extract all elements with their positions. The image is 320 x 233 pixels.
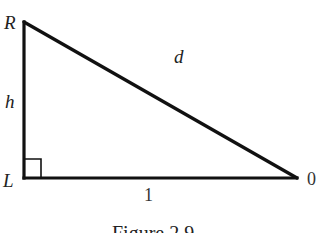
- side-hypotenuse-R0: [24, 22, 297, 178]
- right-angle-marker: [24, 159, 41, 178]
- vertex-label-L: L: [2, 170, 14, 191]
- side-label-base: 1: [144, 185, 153, 205]
- side-label-d: d: [174, 46, 184, 67]
- figure-caption: Figure 2.9: [112, 222, 194, 233]
- vertex-label-origin: 0: [307, 169, 316, 189]
- side-label-h: h: [5, 91, 15, 112]
- vertex-label-R: R: [3, 12, 16, 33]
- right-triangle-diagram: R L 0 h d 1 Figure 2.9: [0, 0, 320, 233]
